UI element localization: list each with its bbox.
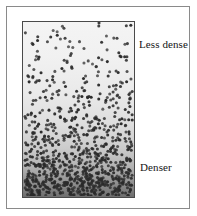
label-denser: Denser	[140, 161, 172, 173]
particle-density-box	[22, 21, 135, 198]
label-less-dense: Less dense	[139, 38, 188, 50]
particle-dots-layer	[23, 22, 134, 196]
figure-frame: Less dense Denser	[6, 6, 190, 209]
